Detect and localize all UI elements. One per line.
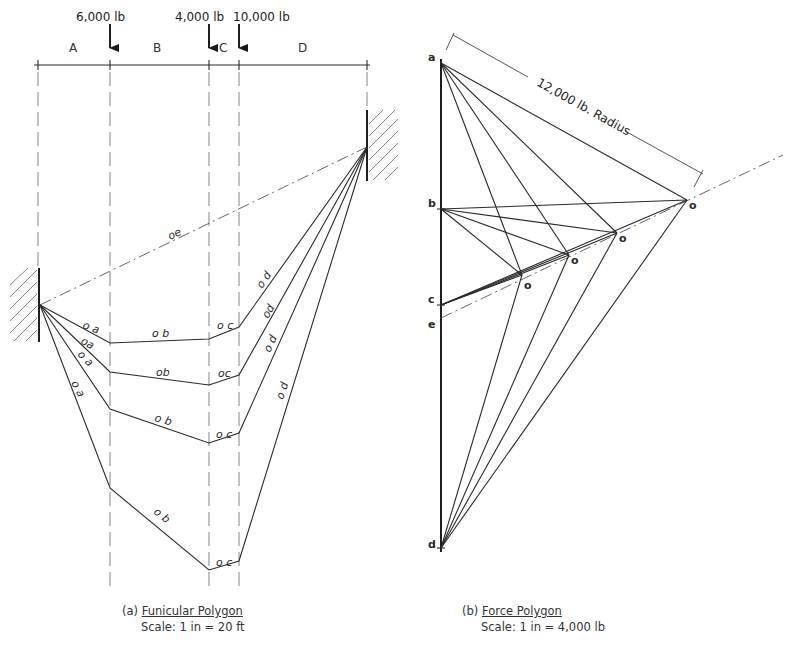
span-label-b: B (153, 41, 161, 55)
point-a: a (428, 51, 435, 64)
left-support (10, 268, 39, 342)
svg-text:o d: o d (261, 332, 280, 354)
svg-text:o c: o c (217, 319, 233, 332)
svg-text:o b: o b (152, 327, 169, 340)
funicular-caption: (a) Funicular Polygon Scale: 1 in = 20 f… (122, 603, 245, 635)
right-support (367, 110, 398, 181)
rays-pole-3 (441, 63, 569, 548)
point-e: e (428, 318, 435, 331)
pole-3: o (571, 254, 579, 267)
closing-ray-oe (441, 155, 783, 318)
svg-text:o a: o a (68, 378, 88, 399)
force-caption-title: Force Polygon (482, 604, 562, 618)
svg-text:o b: o b (151, 505, 173, 526)
rays-pole-1 (441, 63, 687, 548)
funicular-caption-title: Funicular Polygon (142, 604, 243, 618)
force-caption: (b) Force Polygon Scale: 1 in = 4,000 lb (462, 603, 605, 635)
svg-text:od: od (259, 301, 278, 320)
funicular-polygon-1 (40, 147, 367, 343)
load-label-2: 4,000 lb (175, 10, 224, 24)
graphic-statics-diagram: 6,000 lb 4,000 lb 10,000 lb A B C D (0, 0, 799, 647)
force-caption-scale: Scale: 1 in = 4,000 lb (462, 619, 605, 635)
svg-text:o d: o d (254, 268, 275, 290)
radius-dimension (446, 33, 703, 187)
span-label-d: D (298, 41, 307, 55)
svg-text:o c: o c (216, 556, 232, 569)
svg-text:o d: o d (273, 380, 291, 401)
funicular-polygon-3 (40, 147, 367, 443)
svg-text:o a: o a (75, 348, 96, 369)
funicular-polygon: 6,000 lb 4,000 lb 10,000 lb A B C D (10, 10, 398, 590)
span-label-c: C (219, 41, 227, 55)
force-polygon: a b c e d (428, 33, 783, 552)
radius-label: 12,000 lb. Radius (535, 75, 633, 138)
svg-text:oc: oc (218, 367, 231, 380)
load-label-1: 6,000 lb (76, 10, 125, 24)
closing-line-label: oe (166, 225, 184, 243)
closing-line-oe (40, 147, 367, 305)
pole-4: o (524, 279, 532, 292)
pole-1: o (689, 199, 697, 212)
funicular-caption-scale: Scale: 1 in = 20 ft (122, 619, 245, 635)
load-label-3: 10,000 lb (233, 10, 290, 24)
svg-text:o b: o b (153, 411, 173, 428)
svg-text:ob: ob (156, 366, 170, 379)
point-d: d (428, 538, 436, 551)
point-c: c (428, 293, 435, 306)
svg-text:o c: o c (216, 428, 232, 441)
pole-2: o (619, 232, 627, 245)
point-b: b (428, 197, 436, 210)
span-label-a: A (69, 41, 78, 55)
